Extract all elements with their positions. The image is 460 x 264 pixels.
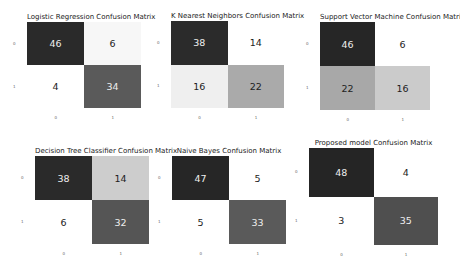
y-tick-label: 1 xyxy=(158,219,161,224)
chart-title: K Nearest Neighbors Confusion Matrix xyxy=(171,12,284,20)
x-tick-label: 0 xyxy=(63,251,66,256)
y-tick-label: 1 xyxy=(306,85,309,90)
chart-title: Logistic Regression Confusion Matrix xyxy=(27,13,141,21)
heatmap-cell: 3 xyxy=(309,197,374,246)
y-tick-label: 1 xyxy=(21,219,24,224)
heatmap-grid: 4662216 xyxy=(320,22,430,110)
confusion-matrix-panel: Proposed model Confusion Matrix484335010… xyxy=(309,148,438,245)
x-tick-label: 1 xyxy=(257,251,260,256)
heatmap-grid: 3814632 xyxy=(35,156,149,244)
y-tick-label: 0 xyxy=(13,41,16,46)
chart-title: Naive Bayes Confusion Matrix xyxy=(172,147,286,155)
heatmap-grid: 466434 xyxy=(27,22,141,108)
heatmap-grid: 484335 xyxy=(309,148,438,245)
heatmap-cell: 4 xyxy=(374,148,439,197)
x-tick-label: 0 xyxy=(200,251,203,256)
chart-title: Proposed model Confusion Matrix xyxy=(309,139,438,147)
heatmap-cell: 47 xyxy=(172,156,229,200)
y-tick-label: 0 xyxy=(306,41,309,46)
x-tick-label: 0 xyxy=(340,252,343,257)
x-tick-label: 1 xyxy=(112,115,115,120)
confusion-matrix-panel: Decision Tree Classifier Confusion Matri… xyxy=(35,156,149,244)
heatmap-cell: 6 xyxy=(84,22,141,65)
heatmap-cell: 5 xyxy=(172,200,229,244)
y-tick-label: 0 xyxy=(21,175,24,180)
heatmap-cell: 14 xyxy=(228,21,285,65)
heatmap-cell: 33 xyxy=(229,200,286,244)
chart-title: Decision Tree Classifier Confusion Matri… xyxy=(35,147,149,155)
heatmap-cell: 32 xyxy=(92,200,149,244)
x-tick-label: 0 xyxy=(198,115,201,120)
y-tick-label: 1 xyxy=(295,218,298,223)
confusion-matrix-panel: Logistic Regression Confusion Matrix4664… xyxy=(27,22,141,108)
heatmap-cell: 16 xyxy=(375,66,430,110)
x-tick-label: 1 xyxy=(120,251,123,256)
heatmap-grid: 38141622 xyxy=(171,21,284,108)
heatmap-cell: 38 xyxy=(171,21,228,65)
heatmap-cell: 38 xyxy=(35,156,92,200)
confusion-matrix-panel: Support Vector Machine Confusion Matrix4… xyxy=(320,22,430,110)
heatmap-cell: 6 xyxy=(375,22,430,66)
heatmap-cell: 5 xyxy=(229,156,286,200)
heatmap-cell: 4 xyxy=(27,65,84,108)
heatmap-cell: 46 xyxy=(27,22,84,65)
x-tick-label: 0 xyxy=(347,117,350,122)
x-tick-label: 1 xyxy=(402,117,405,122)
y-tick-label: 1 xyxy=(13,84,16,89)
heatmap-grid: 475533 xyxy=(172,156,286,244)
heatmap-cell: 6 xyxy=(35,200,92,244)
confusion-matrix-panel: K Nearest Neighbors Confusion Matrix3814… xyxy=(171,21,284,108)
y-tick-label: 0 xyxy=(295,169,298,174)
heatmap-cell: 16 xyxy=(171,65,228,109)
y-tick-label: 0 xyxy=(158,175,161,180)
x-tick-label: 0 xyxy=(55,115,58,120)
heatmap-cell: 35 xyxy=(374,197,439,246)
heatmap-cell: 22 xyxy=(228,65,285,109)
y-tick-label: 1 xyxy=(157,83,160,88)
heatmap-cell: 14 xyxy=(92,156,149,200)
heatmap-cell: 46 xyxy=(320,22,375,66)
confusion-matrix-panel: Naive Bayes Confusion Matrix4755330101 xyxy=(172,156,286,244)
x-tick-label: 1 xyxy=(405,252,408,257)
y-tick-label: 0 xyxy=(157,40,160,45)
x-tick-label: 1 xyxy=(255,115,258,120)
heatmap-cell: 34 xyxy=(84,65,141,108)
heatmap-cell: 48 xyxy=(309,148,374,197)
heatmap-cell: 22 xyxy=(320,66,375,110)
chart-title: Support Vector Machine Confusion Matrix xyxy=(320,13,430,21)
